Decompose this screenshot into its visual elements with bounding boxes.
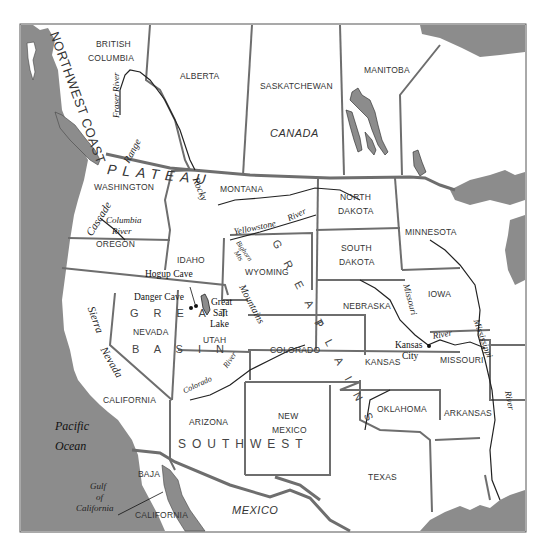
label-british: BRITISH [96, 40, 131, 49]
label-texas: TEXAS [368, 473, 397, 482]
label-hogup-cave: Hogup Cave [145, 270, 193, 280]
label-new-mexico-1: NEW [278, 412, 298, 421]
label-missouri: MISSOURI [440, 356, 484, 365]
label-arkansas: ARKANSAS [444, 409, 492, 418]
label-columbia: COLUMBIA [88, 54, 134, 63]
label-kansas: KANSAS [365, 358, 401, 367]
label-arizona: ARIZONA [189, 418, 228, 427]
kansas-city-marker [427, 344, 431, 348]
label-baja-california: CALIFORNIA [135, 511, 188, 520]
label-kansas-city-2: City [402, 352, 418, 362]
label-iowa: IOWA [428, 290, 451, 299]
label-great-salt-lake-1: Great [211, 298, 232, 308]
label-canada: CANADA [270, 128, 319, 139]
label-kansas-city-1: Kansas [395, 341, 422, 351]
label-danger-cave: Danger Cave [134, 293, 184, 303]
label-great-salt-lake-3: Lake [210, 320, 229, 330]
label-montana: MONTANA [220, 185, 263, 194]
label-southwest: SOUTHWEST [178, 438, 309, 450]
label-columbia-river-1: Columbia [106, 216, 142, 225]
label-wyoming: WYOMING [245, 268, 289, 277]
label-north-dakota-1: NORTH [340, 193, 371, 202]
label-saskatchewan: SASKATCHEWAN [260, 82, 333, 91]
label-minnesota: MINNESOTA [405, 228, 457, 237]
label-pacific: Pacific [55, 420, 89, 432]
label-south-dakota-2: DAKOTA [339, 258, 375, 267]
label-gulf-1: Gulf [90, 482, 106, 491]
label-colorado: COLORADO [270, 346, 320, 355]
label-south-dakota-1: SOUTH [341, 244, 372, 253]
label-fraser: Fraser [112, 94, 121, 119]
label-washington: WASHINGTON [94, 183, 154, 192]
label-nebraska: NEBRASKA [343, 302, 391, 311]
label-great-basin-2: B A S I N [132, 344, 230, 355]
label-mexico: MEXICO [232, 505, 278, 516]
label-nevada: NEVADA [133, 328, 169, 337]
label-ocean: Ocean [55, 440, 86, 452]
label-oklahoma: OKLAHOMA [377, 405, 427, 414]
label-manitoba: MANITOBA [364, 66, 410, 75]
label-alberta: ALBERTA [180, 72, 219, 81]
label-gulf-2: of [96, 493, 103, 502]
label-california: CALIFORNIA [103, 396, 156, 405]
label-great-salt-lake-2: Salt [213, 309, 228, 319]
label-fraser-river: River [112, 73, 121, 93]
label-columbia-river-2: River [112, 227, 132, 236]
label-north-dakota-2: DAKOTA [338, 207, 374, 216]
label-gulf-3: California [76, 504, 114, 513]
label-idaho: IDAHO [177, 256, 205, 265]
label-baja: BAJA [138, 470, 160, 479]
label-oregon: OREGON [96, 240, 135, 249]
label-new-mexico-2: MEXICO [272, 426, 307, 435]
